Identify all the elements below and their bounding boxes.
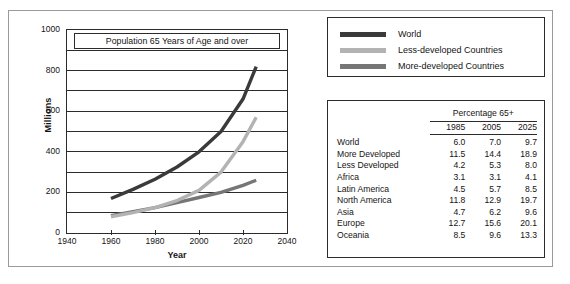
table-cell-2005: 12.9 xyxy=(465,195,501,207)
table-span-header-row: Percentage 65+ xyxy=(337,108,537,121)
x-tick-2000: 2000 xyxy=(179,237,219,246)
table-cell-2025: 19.7 xyxy=(501,195,537,207)
table-cell-region: Europe xyxy=(337,218,430,230)
table-cell-2005: 3.1 xyxy=(465,172,501,184)
table-cell-1985: 4.7 xyxy=(430,207,466,219)
x-tick-mark-2000 xyxy=(199,230,200,235)
table-cell-1985: 11.5 xyxy=(430,149,466,161)
table-cell-2025: 9.6 xyxy=(501,207,537,219)
x-tick-mark-1980 xyxy=(155,230,156,235)
table-row: More Developed11.514.418.9 xyxy=(337,149,537,161)
x-tick-mark-1960 xyxy=(111,230,112,235)
legend-swatch-icon xyxy=(340,64,386,69)
y-tick-200: 200 xyxy=(30,187,60,196)
table-row: World6.07.09.7 xyxy=(337,135,537,149)
percentage-table: Percentage 65+ 1985 2005 2025 World6.07.… xyxy=(337,108,537,242)
table-cell-2025: 13.3 xyxy=(501,230,537,242)
table-cell-2005: 5.7 xyxy=(465,184,501,196)
column-header-2005: 2005 xyxy=(465,121,501,135)
table-cell-region: Oceania xyxy=(337,230,430,242)
series-lines xyxy=(111,67,256,217)
table-row: North America11.812.919.7 xyxy=(337,195,537,207)
table-cell-2005: 15.6 xyxy=(465,218,501,230)
table-cell-1985: 11.8 xyxy=(430,195,466,207)
span-header-spacer xyxy=(337,108,430,121)
table-row: Less Developed4.25.38.0 xyxy=(337,160,537,172)
legend-label: World xyxy=(398,27,421,41)
x-tick-2040: 2040 xyxy=(267,237,307,246)
table-cell-2005: 7.0 xyxy=(465,135,501,149)
percentage-table-panel: Percentage 65+ 1985 2005 2025 World6.07.… xyxy=(327,100,545,258)
plot-svg xyxy=(67,30,287,233)
table-cell-1985: 8.5 xyxy=(430,230,466,242)
table-row: Oceania8.59.613.3 xyxy=(337,230,537,242)
table-cell-2005: 9.6 xyxy=(465,230,501,242)
legend-label: Less-developed Countries xyxy=(398,43,503,57)
legend-item-more-developed-countries: More-developed Countries xyxy=(340,59,540,73)
table-cell-2005: 5.3 xyxy=(465,160,501,172)
x-axis-title: Year xyxy=(66,250,288,260)
legend-label: More-developed Countries xyxy=(398,59,504,73)
figure-panel: Millions 10008006004002000 Population 65… xyxy=(0,0,570,284)
x-tick-1960: 1960 xyxy=(91,237,131,246)
y-tick-0: 0 xyxy=(30,228,60,237)
table-row: Latin America4.55.78.5 xyxy=(337,184,537,196)
plot-area xyxy=(66,29,288,234)
table-row: Asia4.76.29.6 xyxy=(337,207,537,219)
legend-item-world: World xyxy=(340,27,540,41)
chart-title: Population 65 Years of Age and over xyxy=(74,33,280,49)
y-tick-600: 600 xyxy=(30,106,60,115)
legend-item-less-developed-countries: Less-developed Countries xyxy=(340,43,540,57)
table-cell-2005: 6.2 xyxy=(465,207,501,219)
table-cell-1985: 6.0 xyxy=(430,135,466,149)
table-cell-region: World xyxy=(337,135,430,149)
table-cell-2025: 20.1 xyxy=(501,218,537,230)
y-tick-800: 800 xyxy=(30,66,60,75)
table-cell-1985: 3.1 xyxy=(430,172,466,184)
column-header-2025: 2025 xyxy=(501,121,537,135)
table-cell-region: North America xyxy=(337,195,430,207)
table-row: Africa3.13.14.1 xyxy=(337,172,537,184)
x-tick-1940: 1940 xyxy=(47,237,87,246)
table-cell-region: Less Developed xyxy=(337,160,430,172)
table-cell-1985: 4.2 xyxy=(430,160,466,172)
y-tick-1000: 1000 xyxy=(30,25,60,34)
y-axis-tick-labels: 10008006004002000 xyxy=(30,14,60,270)
table-cell-region: More Developed xyxy=(337,149,430,161)
table-cell-region: Africa xyxy=(337,172,430,184)
legend: WorldLess-developed CountriesMore-develo… xyxy=(327,17,545,77)
table-cell-1985: 12.7 xyxy=(430,218,466,230)
column-header-1985: 1985 xyxy=(430,121,466,135)
legend-swatch-icon xyxy=(340,32,386,37)
table-body: World6.07.09.7More Developed11.514.418.9… xyxy=(337,135,537,242)
table-cell-2025: 8.5 xyxy=(501,184,537,196)
line-chart: Millions 10008006004002000 Population 65… xyxy=(14,14,314,270)
x-axis-tick-labels: 194019601980200020202040 xyxy=(66,235,288,249)
table-column-header-row: 1985 2005 2025 xyxy=(337,121,537,135)
table-cell-2005: 14.4 xyxy=(465,149,501,161)
table-cell-region: Asia xyxy=(337,207,430,219)
legend-swatch-icon xyxy=(340,48,386,53)
y-tick-400: 400 xyxy=(30,147,60,156)
table-cell-2025: 18.9 xyxy=(501,149,537,161)
table-cell-1985: 4.5 xyxy=(430,184,466,196)
table-head: Percentage 65+ 1985 2005 2025 xyxy=(337,108,537,135)
column-header-spacer xyxy=(337,121,430,135)
table-cell-2025: 8.0 xyxy=(501,160,537,172)
table-cell-2025: 4.1 xyxy=(501,172,537,184)
table-cell-2025: 9.7 xyxy=(501,135,537,149)
x-tick-mark-2020 xyxy=(243,230,244,235)
x-tick-1980: 1980 xyxy=(135,237,175,246)
table-cell-region: Latin America xyxy=(337,184,430,196)
span-header-percentage: Percentage 65+ xyxy=(430,108,537,121)
table-row: Europe12.715.620.1 xyxy=(337,218,537,230)
series-line-world xyxy=(111,67,256,199)
x-tick-2020: 2020 xyxy=(223,237,263,246)
